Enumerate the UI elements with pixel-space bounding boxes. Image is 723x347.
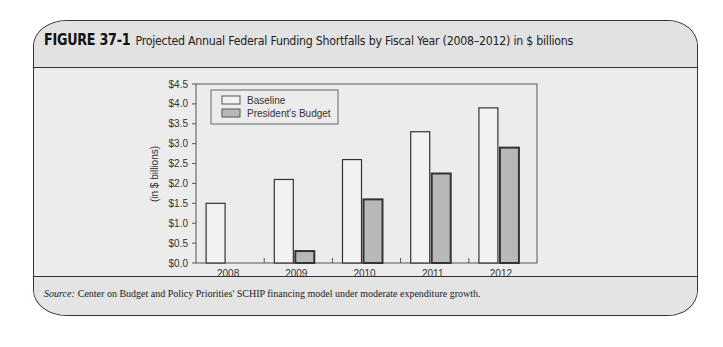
y-tick-label: $4.5 <box>169 79 189 90</box>
legend-label: Baseline <box>247 95 286 106</box>
bar-presidents-budget-2012 <box>500 148 519 263</box>
x-tick-label: 2011 <box>422 268 444 279</box>
bar-baseline-2009 <box>274 179 293 263</box>
y-tick-label: $4.0 <box>169 98 189 109</box>
y-tick-label: $0.5 <box>169 238 189 249</box>
bar-presidents-budget-2010 <box>364 199 383 263</box>
y-tick-label: $1.0 <box>169 218 189 229</box>
legend-swatch <box>222 96 240 104</box>
bar-baseline-2011 <box>411 132 430 263</box>
bar-chart: $0.0$0.5$1.0$1.5$2.0$2.5$3.0$3.5$4.0$4.5… <box>0 0 723 347</box>
bar-presidents-budget-2009 <box>295 251 314 263</box>
bar-baseline-2012 <box>479 108 498 263</box>
y-tick-label: $3.0 <box>169 138 189 149</box>
y-tick-label: $0.0 <box>169 258 189 269</box>
y-axis-label: (in $ billions) <box>149 146 160 202</box>
x-tick-label: 2008 <box>217 268 240 279</box>
x-tick-label: 2012 <box>490 268 513 279</box>
legend-label: President's Budget <box>247 108 331 119</box>
x-tick-label: 2010 <box>353 268 376 279</box>
y-tick-label: $1.5 <box>169 198 189 209</box>
legend-swatch <box>222 109 240 117</box>
bar-baseline-2010 <box>343 160 362 263</box>
bar-baseline-2008 <box>206 203 225 263</box>
y-tick-label: $2.0 <box>169 178 189 189</box>
y-tick-label: $3.5 <box>169 118 189 129</box>
bar-presidents-budget-2011 <box>432 174 451 264</box>
y-tick-label: $2.5 <box>169 158 189 169</box>
x-tick-label: 2009 <box>285 268 308 279</box>
